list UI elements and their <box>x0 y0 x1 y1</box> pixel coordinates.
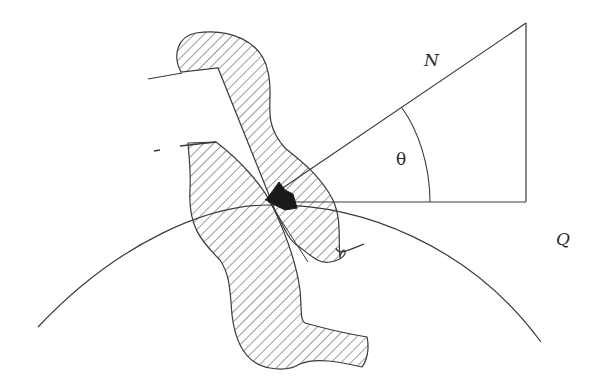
angle-label: θ <box>396 151 406 168</box>
diagram-canvas <box>0 0 602 390</box>
hypotenuse-label: N <box>424 52 439 69</box>
point-q-label: Q <box>556 231 570 248</box>
hypotenuse-line <box>265 23 526 200</box>
right-shape-tail <box>336 244 364 252</box>
upper-shape-tail <box>148 73 182 79</box>
